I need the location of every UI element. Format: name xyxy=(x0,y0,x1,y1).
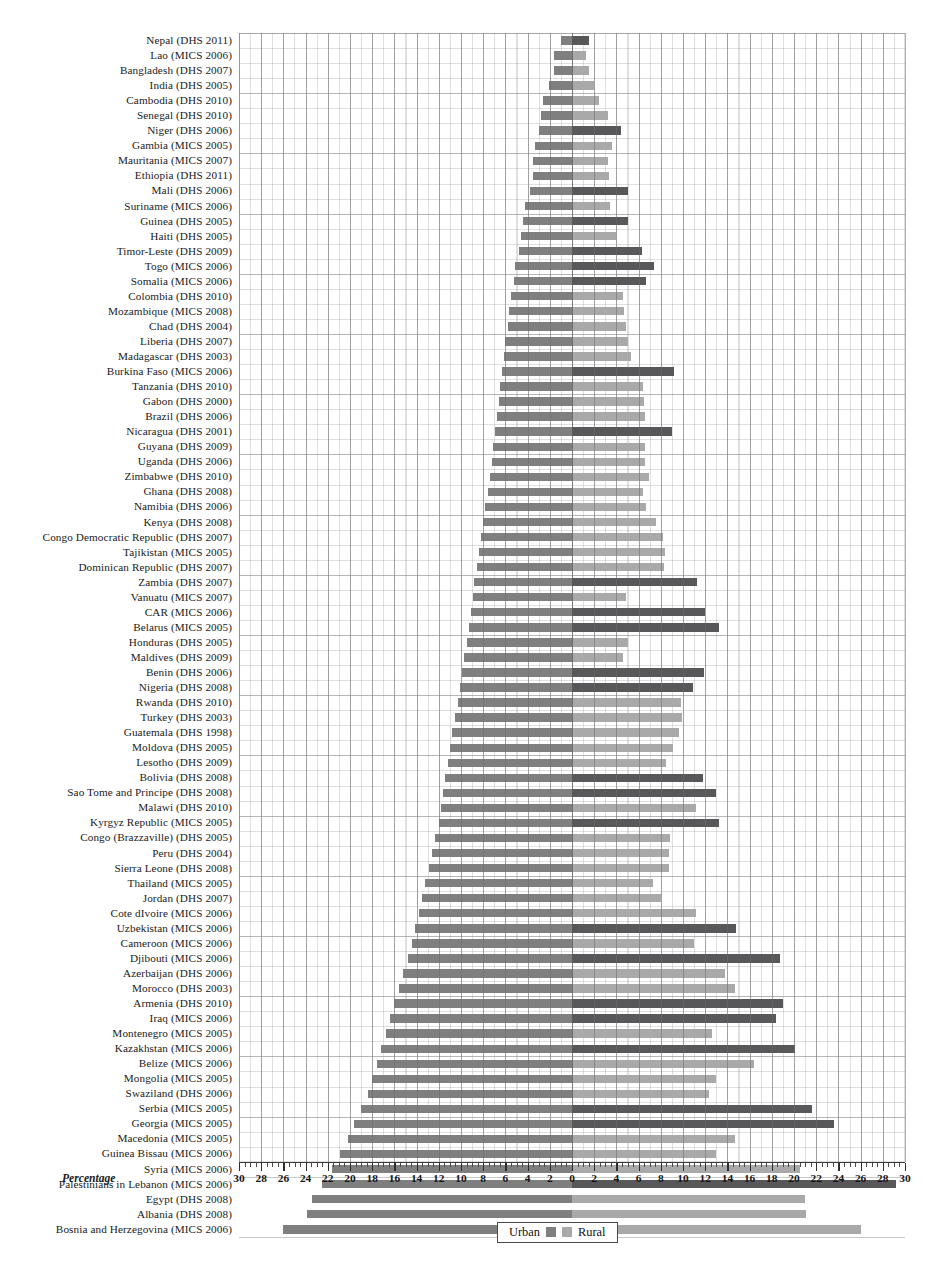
axis-minor-tick xyxy=(777,1163,778,1167)
axis-minor-tick xyxy=(361,1163,362,1167)
bar-urban xyxy=(460,683,572,691)
horizontal-gridline xyxy=(239,1117,905,1118)
axis-minor-tick xyxy=(689,1163,690,1167)
category-label: Guinea Bissau (MICS 2006) xyxy=(0,1146,236,1161)
axis-major-tick xyxy=(439,1163,440,1171)
bar-rural xyxy=(572,698,681,706)
category-label-column: Nepal (DHS 2011)Lao (MICS 2006)Banglades… xyxy=(0,33,236,1237)
bar-urban xyxy=(535,142,572,150)
axis-tick-label: 4 xyxy=(525,1172,531,1184)
bar-urban xyxy=(549,81,572,89)
bar-urban xyxy=(500,382,572,390)
axis-minor-tick xyxy=(278,1163,279,1167)
axis-minor-tick xyxy=(761,1163,762,1167)
bar-urban xyxy=(554,66,572,74)
axis-major-tick xyxy=(727,1163,728,1171)
vertical-gridline xyxy=(616,33,617,1162)
bar-rural xyxy=(572,593,626,601)
category-label: Timor-Leste (DHS 2009) xyxy=(0,244,236,259)
bar-rural xyxy=(572,443,645,451)
bar-rural xyxy=(572,713,682,721)
axis-minor-tick xyxy=(805,1163,806,1167)
bar-rural xyxy=(572,834,670,842)
axis-tick-label: 20 xyxy=(344,1172,355,1184)
category-label: Nigeria (DHS 2008) xyxy=(0,680,236,695)
category-label: Madagascar (DHS 2003) xyxy=(0,349,236,364)
bar-urban xyxy=(462,668,572,676)
bar-rural xyxy=(572,518,656,526)
bar-urban xyxy=(368,1090,572,1098)
category-label: Iraq (MICS 2006) xyxy=(0,1011,236,1026)
vertical-gridline xyxy=(350,33,351,1162)
category-label: Bangladesh (DHS 2007) xyxy=(0,63,236,78)
bar-urban xyxy=(354,1120,572,1128)
bar-rural xyxy=(572,292,623,300)
vertical-gridline xyxy=(417,33,418,1162)
axis-minor-tick xyxy=(539,1163,540,1167)
axis-minor-tick xyxy=(250,1163,251,1167)
bar-urban xyxy=(481,533,572,541)
axis-minor-tick xyxy=(344,1163,345,1167)
axis-minor-tick xyxy=(494,1163,495,1167)
category-label: Togo (MICS 2006) xyxy=(0,259,236,274)
axis-minor-tick xyxy=(855,1163,856,1167)
bar-row xyxy=(239,1192,905,1207)
vertical-gridline xyxy=(861,33,862,1162)
axis-major-tick xyxy=(328,1163,329,1171)
axis-tick-label: 8 xyxy=(658,1172,664,1184)
axis-minor-tick xyxy=(428,1163,429,1167)
bar-urban xyxy=(525,202,572,210)
bar-rural xyxy=(572,202,610,210)
category-label: CAR (MICS 2006) xyxy=(0,605,236,620)
bar-urban xyxy=(509,307,572,315)
category-label: Lao (MICS 2006) xyxy=(0,48,236,63)
bar-rural xyxy=(572,322,626,330)
axis-tick-label: 10 xyxy=(455,1172,466,1184)
axis-major-tick xyxy=(483,1163,484,1171)
bar-rural xyxy=(572,909,696,917)
horizontal-gridline xyxy=(239,515,905,516)
category-label: Somalia (MICS 2006) xyxy=(0,274,236,289)
vertical-gridline xyxy=(639,33,640,1162)
bar-rural xyxy=(572,397,644,405)
axis-minor-tick xyxy=(367,1163,368,1167)
axis-major-tick xyxy=(417,1163,418,1171)
axis-major-tick xyxy=(794,1163,795,1171)
bar-rural xyxy=(572,488,643,496)
x-axis-title: Percentage xyxy=(62,1172,115,1185)
bar-rural xyxy=(572,217,628,225)
axis-minor-tick xyxy=(800,1163,801,1167)
bar-rural xyxy=(572,1105,812,1113)
bar-rural xyxy=(572,126,621,134)
axis-minor-tick xyxy=(694,1163,695,1167)
category-label: Rwanda (DHS 2010) xyxy=(0,695,236,710)
bar-urban xyxy=(377,1060,572,1068)
horizontal-gridline xyxy=(239,1056,905,1057)
horizontal-gridline xyxy=(239,996,905,997)
bar-rural xyxy=(572,262,654,270)
bar-urban xyxy=(455,713,572,721)
axis-tick-label: 18 xyxy=(766,1172,777,1184)
horizontal-gridline xyxy=(239,33,905,34)
bar-urban xyxy=(464,653,572,661)
category-label: Morocco (DHS 2003) xyxy=(0,981,236,996)
axis-minor-tick xyxy=(894,1163,895,1167)
bar-rural xyxy=(572,653,623,661)
axis-minor-tick xyxy=(472,1163,473,1167)
axis-minor-tick xyxy=(644,1163,645,1167)
category-label: Brazil (DHS 2006) xyxy=(0,409,236,424)
bar-urban xyxy=(488,488,572,496)
bar-rural xyxy=(572,458,645,466)
bar-urban xyxy=(469,623,572,631)
axis-minor-tick xyxy=(383,1163,384,1167)
axis-minor-tick xyxy=(677,1163,678,1167)
category-label: Zambia (DHS 2007) xyxy=(0,575,236,590)
horizontal-gridline xyxy=(239,936,905,937)
category-label: Nepal (DHS 2011) xyxy=(0,33,236,48)
axis-minor-tick xyxy=(478,1163,479,1167)
axis-minor-tick xyxy=(666,1163,667,1167)
category-label: Haiti (DHS 2005) xyxy=(0,229,236,244)
axis-minor-tick xyxy=(589,1163,590,1167)
bar-urban xyxy=(504,352,572,360)
axis-tick-label: 24 xyxy=(300,1172,311,1184)
